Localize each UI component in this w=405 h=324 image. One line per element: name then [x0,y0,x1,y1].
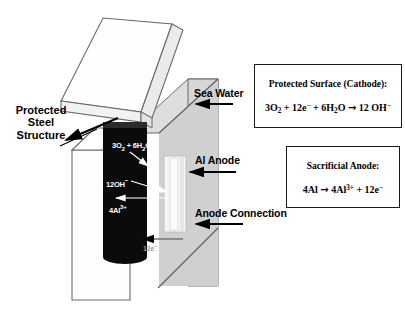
label-sea-water: Sea Water [194,88,243,100]
anode-box-equation: 4Al → 4Al3+ + 12e− [287,184,399,195]
label-cathode-reactants: 3O2 + 6H2O [112,141,151,152]
label-anode-connection: Anode Connection [195,208,287,220]
label-protected-steel-line-2: Steel [2,116,80,128]
aluminium-ion-sup1: 3+ [120,203,127,210]
al-anode-core [170,158,178,230]
label-protected-steel-line-1: Protected [2,104,80,116]
electrons-sup1: − [154,243,157,249]
electrons-p0: 12e [143,245,154,252]
anode-box-title: Sacrificial Anode: [287,161,399,171]
cathodic-protection-figure: Protected Steel Structure Sea Water Al A… [0,0,405,324]
cathode-reactants-p2: + 6H [125,141,142,150]
label-al-anode: Al Anode [195,155,240,167]
cathode-box-equation: 3O2 + 12e− + 6H2O → 12 OH− [255,102,401,115]
equation-box-anode: Sacrificial Anode: 4Al → 4Al3+ + 12e− [286,146,400,208]
equation-box-cathode: Protected Surface (Cathode): 3O2 + 12e− … [254,64,402,128]
cathode-reactants-p0: 3O [112,141,122,150]
cathode-reactants-p4: O [145,141,151,150]
hydroxide-p0: 12OH [106,180,125,189]
label-protected-steel-line-3: Structure [2,129,80,141]
label-electron-flow: 12e− [143,243,157,252]
al-anode-highlight [180,157,184,231]
steel-column-bottom-cap [103,250,147,264]
steel-column-top-shade [103,122,147,128]
label-hydroxide: 12OH− [106,177,128,189]
aluminium-ion-p0: 4Al [109,206,120,215]
label-aluminium-ion: 4Al3+ [109,203,127,215]
hydroxide-sup1: − [125,177,128,184]
cathode-box-title: Protected Surface (Cathode): [255,79,401,89]
label-protected-steel-structure: Protected Steel Structure [2,104,80,141]
